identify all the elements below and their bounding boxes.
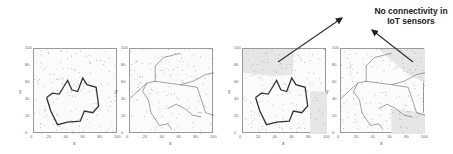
arrow-2 — [372, 30, 413, 62]
arrow-1 — [278, 18, 342, 62]
arrows — [0, 0, 453, 154]
